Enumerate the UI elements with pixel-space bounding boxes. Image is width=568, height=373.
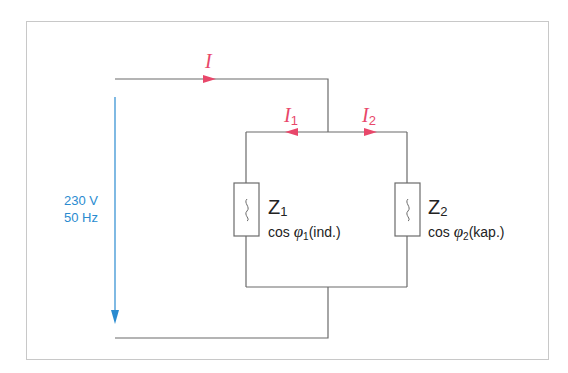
source-frequency: 50 Hz: [64, 209, 98, 226]
current-i2-arrow: [364, 128, 377, 136]
current-subscript: 2: [369, 113, 376, 128]
current-i-label: I: [205, 50, 212, 73]
z1-label: Z1: [268, 196, 287, 219]
current-subscript: 1: [291, 113, 298, 128]
current-i2-label: I2: [362, 104, 376, 128]
cos-label: cos: [428, 224, 454, 240]
z2-label: Z2: [428, 196, 447, 219]
current-i1-label: I1: [284, 104, 298, 128]
impedance-symbol: Z: [268, 196, 280, 218]
impedance-subscript: 2: [440, 204, 447, 219]
impedance-subscript: 1: [280, 204, 287, 219]
impedance-symbol: Z: [428, 196, 440, 218]
source-voltage: 230 V: [64, 192, 98, 209]
current-symbol: I: [362, 104, 369, 126]
phi-symbol: φ: [294, 222, 303, 241]
impedance-z2: [395, 183, 420, 236]
circuit-wiring: [0, 0, 568, 373]
source-label: 230 V 50 Hz: [64, 192, 98, 226]
current-i1-arrow: [285, 128, 298, 136]
current-symbol: I: [284, 104, 291, 126]
cos-label: cos: [268, 224, 294, 240]
current-i-arrow: [203, 75, 216, 83]
power-factor-type: (kap.): [469, 224, 505, 240]
voltage-arrow-head: [111, 310, 119, 324]
phi-symbol: φ: [454, 222, 463, 241]
impedance-z1: [234, 183, 259, 236]
current-symbol: I: [205, 50, 212, 72]
z2-power-factor: cos φ2(kap.): [428, 222, 504, 242]
z1-power-factor: cos φ1(ind.): [268, 222, 341, 242]
power-factor-type: (ind.): [309, 224, 341, 240]
bottom-wire: [115, 287, 328, 338]
